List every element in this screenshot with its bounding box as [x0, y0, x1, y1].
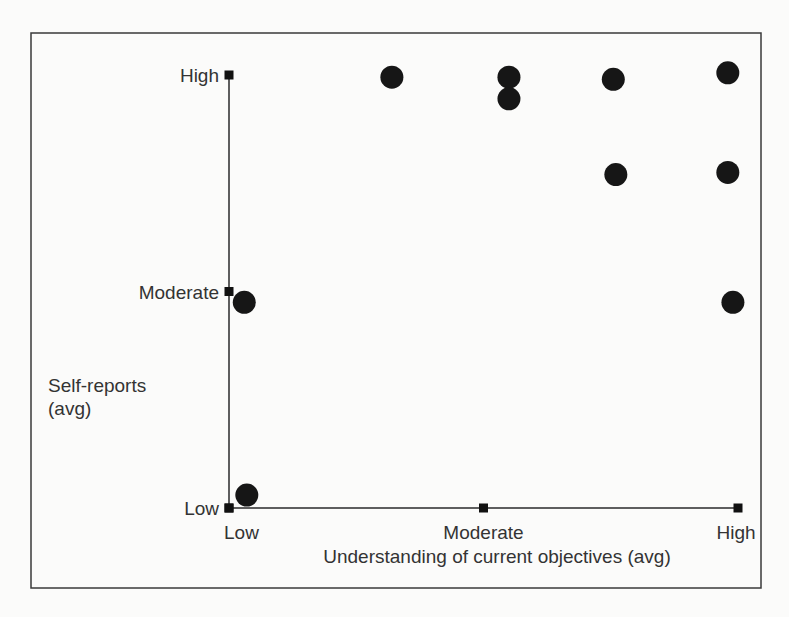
data-point — [235, 484, 258, 507]
y-tick-marker — [225, 71, 234, 80]
x-tick-label: Moderate — [443, 522, 523, 543]
data-point — [233, 291, 256, 314]
y-tick-label: High — [180, 65, 219, 86]
scatter-chart: LowModerateHigh LowModerateHigh Understa… — [0, 0, 789, 617]
chart-frame — [31, 33, 761, 588]
data-point — [497, 87, 520, 110]
y-axis-label-line-1: Self-reports — [48, 375, 146, 396]
y-tick-label: Low — [184, 498, 219, 519]
x-tick-marker — [225, 504, 234, 513]
data-point — [602, 68, 625, 91]
data-point — [380, 66, 403, 89]
data-point — [716, 61, 739, 84]
data-point — [716, 161, 739, 184]
y-tick-label: Moderate — [139, 282, 219, 303]
x-tick-marker — [479, 504, 488, 513]
x-tick-label: High — [716, 522, 755, 543]
x-axis-label: Understanding of current objectives (avg… — [323, 546, 670, 567]
y-tick-marker — [225, 287, 234, 296]
data-point — [497, 66, 520, 89]
x-tick-marker — [734, 504, 743, 513]
x-tick-label: Low — [224, 522, 259, 543]
y-axis-label-line-2: (avg) — [48, 398, 91, 419]
data-point — [721, 291, 744, 314]
data-point — [604, 163, 627, 186]
